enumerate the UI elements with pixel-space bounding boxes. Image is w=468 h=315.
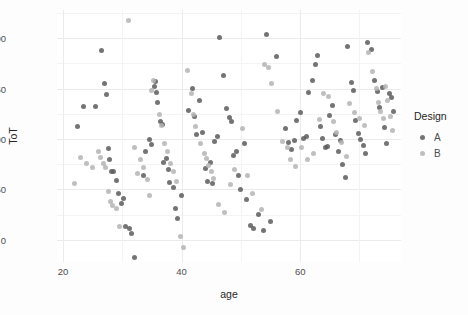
scatter-point (211, 176, 216, 181)
scatter-point (311, 151, 316, 156)
scatter-point (370, 69, 375, 74)
scatter-point (103, 165, 108, 170)
scatter-point (116, 191, 121, 196)
scatter-point (372, 78, 377, 83)
scatter-point (119, 201, 124, 206)
scatter-point (197, 98, 202, 103)
scatter-point (72, 181, 77, 186)
scatter-point (212, 139, 217, 144)
scatter-point (315, 53, 320, 58)
scatter-point (174, 179, 179, 184)
scatter-point (334, 130, 339, 135)
scatter-point (157, 112, 162, 117)
scatter-point (121, 196, 126, 201)
scatter-point (268, 219, 273, 224)
scatter-point (331, 119, 336, 124)
scatter-point (96, 149, 101, 154)
scatter-point (141, 165, 146, 170)
scatter-point (200, 130, 205, 135)
scatter-point (313, 62, 318, 67)
y-axis-label: ToT (7, 127, 19, 145)
legend: Design A B (414, 110, 447, 161)
scatter-point (78, 155, 83, 160)
scatter-point (81, 104, 86, 109)
scatter-point (293, 164, 298, 169)
scatter-point (288, 157, 293, 162)
scatter-point (135, 171, 140, 176)
scatter-point (365, 40, 370, 45)
scatter-point (181, 245, 186, 250)
scatter-point (351, 88, 356, 93)
scatter-point (289, 147, 294, 152)
scatter-point (317, 117, 322, 122)
scatter-point (357, 116, 362, 121)
scatter-point (327, 113, 332, 118)
scatter-point (390, 128, 395, 133)
gridline-horizontal (57, 38, 401, 39)
scatter-point (245, 173, 250, 178)
scatter-point (240, 126, 245, 131)
scatter-point (384, 141, 389, 146)
scatter-point (90, 165, 95, 170)
scatter-point (111, 169, 116, 174)
scatter-point (244, 197, 249, 202)
scatter-point (175, 216, 180, 221)
scatter-point (167, 180, 172, 185)
scatter-point (229, 119, 234, 124)
scatter-point (305, 157, 310, 162)
legend-item-b[interactable]: B (414, 145, 447, 161)
scatter-point (330, 103, 335, 108)
scatter-point (236, 173, 241, 178)
scatter-point (75, 124, 80, 129)
scatter-point (129, 231, 134, 236)
scatter-point (215, 134, 220, 139)
scatter-point (385, 98, 390, 103)
scatter-point (280, 139, 285, 144)
scatter-point (179, 193, 184, 198)
scatter-point (173, 206, 178, 211)
scatter-point (366, 50, 371, 55)
scatter-point (286, 140, 291, 145)
scatter-point (154, 90, 159, 95)
scatter-point (304, 134, 309, 139)
scatter-point (149, 142, 154, 147)
legend-swatch-a-icon (414, 129, 430, 145)
gridline-vertical (63, 10, 64, 262)
scatter-point (202, 151, 207, 156)
scatter-point (388, 114, 393, 119)
scatter-point (162, 141, 167, 146)
y-tick-label: 50 (0, 184, 6, 195)
scatter-point (210, 181, 215, 186)
scatter-point (345, 44, 350, 49)
scatter-point (143, 149, 148, 154)
scatter-point (347, 101, 352, 106)
scatter-point (261, 228, 266, 233)
scatter-point (189, 91, 194, 96)
scatter-point (234, 149, 239, 154)
scatter-point (107, 157, 112, 162)
gridline-vertical (182, 10, 183, 262)
scatter-point (93, 104, 98, 109)
scatter-point (326, 94, 331, 99)
scatter-point (194, 132, 199, 137)
scatter-point (99, 48, 104, 53)
scatter-point (250, 191, 255, 196)
scatter-point (358, 137, 363, 142)
scatter-point (193, 124, 198, 129)
x-axis-label: age (220, 288, 238, 300)
scatter-point (159, 123, 164, 128)
scatter-point (209, 169, 214, 174)
legend-item-a[interactable]: A (414, 129, 447, 145)
scatter-point (238, 187, 243, 192)
scatter-point (343, 175, 348, 180)
y-tick-label: 150 (0, 83, 6, 94)
legend-label-a: A (434, 132, 441, 143)
gridline-horizontal-minor (57, 215, 401, 216)
scatter-point (114, 178, 119, 183)
x-tick-label: 20 (58, 266, 69, 277)
scatter-point (147, 193, 152, 198)
scatter-point (269, 81, 274, 86)
scatter-point (164, 156, 169, 161)
scatter-point (292, 138, 297, 143)
scatter-point (102, 81, 107, 86)
